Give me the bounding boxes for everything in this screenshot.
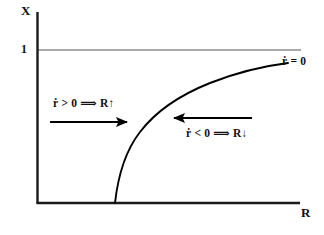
left-region-equation-label: ṙ > 0 ⟹ R↑ <box>53 98 114 110</box>
y-axis-tick-label-one: 1 <box>21 43 27 55</box>
y-axis-label: X <box>21 4 31 17</box>
x-axis-label: R <box>301 206 311 219</box>
nullcline-label: ṙ = 0 <box>282 56 306 68</box>
diagram-canvas <box>0 0 324 235</box>
phase-diagram-figure: X R 1 ṙ > 0 ⟹ R↑ ṙ < 0 ⟹ R↓ ṙ = 0 <box>0 0 324 235</box>
right-region-equation-label: ṙ < 0 ⟹ R↓ <box>186 128 247 140</box>
